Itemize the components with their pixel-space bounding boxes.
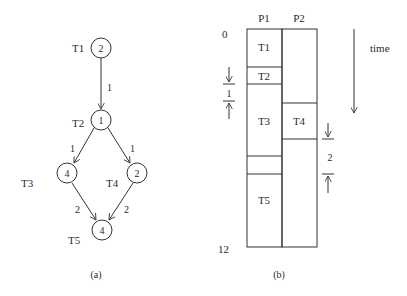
diagram-canvas: 1 1 1 2 2 2 T1 1 T2 4 T3 2 T4 4 T5 bbox=[0, 0, 407, 296]
node-weight: 1 bbox=[99, 115, 104, 126]
node-label: T5 bbox=[68, 234, 81, 246]
comm-delay-marker-right: 2 bbox=[322, 123, 334, 193]
edge-weight-t2-t3: 1 bbox=[70, 143, 75, 154]
edge-t2-t4 bbox=[108, 128, 130, 163]
block-label-t5: T5 bbox=[258, 194, 271, 206]
processor-label-p2: P2 bbox=[293, 12, 305, 24]
node-weight: 2 bbox=[99, 43, 104, 54]
node-weight: 2 bbox=[135, 168, 140, 179]
time-axis: time bbox=[354, 29, 390, 113]
edge-weight-t3-t5: 2 bbox=[75, 204, 80, 215]
node-t5: 4 T5 bbox=[68, 220, 112, 246]
node-label: T1 bbox=[72, 42, 84, 54]
node-t1: 2 T1 bbox=[72, 38, 111, 58]
time-axis-label: time bbox=[370, 42, 390, 54]
node-weight: 4 bbox=[100, 225, 105, 236]
time-start-label: 0 bbox=[222, 28, 228, 40]
caption-a: (a) bbox=[90, 269, 101, 281]
node-label: T3 bbox=[21, 177, 34, 189]
schedule-chart: P1 P2 0 12 T1 T2 T3 T5 T4 1 bbox=[218, 12, 390, 281]
comm-delay-value: 2 bbox=[328, 152, 333, 163]
block-label-t2: T2 bbox=[258, 70, 270, 82]
edge-t2-t3 bbox=[74, 128, 94, 163]
caption-b: (b) bbox=[273, 269, 285, 281]
edge-weight-t2-t4: 1 bbox=[130, 143, 135, 154]
edge-weight-t1-t2: 1 bbox=[107, 82, 112, 93]
node-t2: 1 T2 bbox=[72, 110, 111, 130]
node-t4: 2 T4 bbox=[106, 163, 147, 189]
edge-weight-t4-t5: 2 bbox=[124, 204, 129, 215]
time-end-label: 12 bbox=[218, 243, 229, 255]
node-weight: 4 bbox=[65, 168, 70, 179]
block-label-t3: T3 bbox=[258, 115, 271, 127]
comm-delay-marker-left: 1 bbox=[223, 67, 235, 119]
p2-column bbox=[282, 29, 317, 247]
node-label: T2 bbox=[72, 117, 84, 129]
block-label-t4: T4 bbox=[293, 115, 306, 127]
node-t3: 4 T3 bbox=[21, 163, 77, 189]
node-label: T4 bbox=[106, 177, 119, 189]
processor-label-p1: P1 bbox=[258, 12, 270, 24]
p1-column bbox=[247, 29, 282, 247]
task-graph: 1 1 1 2 2 2 T1 1 T2 4 T3 2 T4 4 T5 bbox=[21, 38, 147, 281]
block-label-t1: T1 bbox=[258, 41, 270, 53]
comm-delay-value: 1 bbox=[227, 88, 232, 99]
